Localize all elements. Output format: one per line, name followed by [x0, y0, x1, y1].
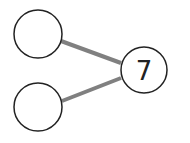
- part-circle-top[interactable]: [14, 10, 62, 58]
- connector-bottom: [62, 78, 121, 101]
- whole-value: 7: [136, 56, 153, 86]
- number-bond-diagram: 7: [0, 0, 190, 143]
- part-circle-bottom[interactable]: [14, 83, 62, 131]
- diagram-svg: 7: [0, 0, 190, 143]
- connector-top: [61, 41, 121, 63]
